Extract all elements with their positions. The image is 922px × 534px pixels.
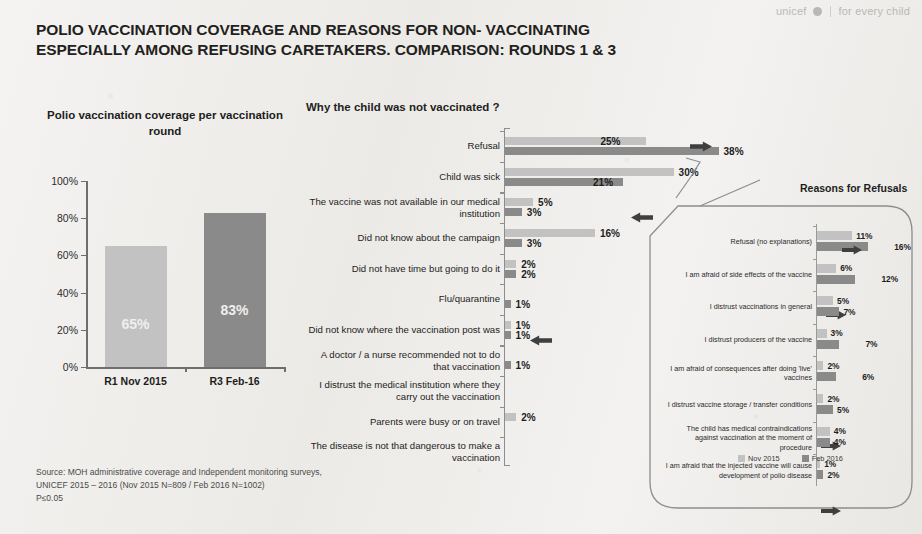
reasons-bar-fill: [505, 239, 522, 247]
reasons-row-tick: [500, 437, 505, 438]
reasons-bar-value: 3%: [527, 237, 541, 248]
coverage-y-tick: 60%: [57, 249, 78, 261]
reasons-bar[interactable]: [505, 290, 511, 298]
legend-label-feb2016: Feb 2016: [812, 454, 843, 463]
refusal-bar[interactable]: 4%: [817, 438, 830, 447]
reasons-bar[interactable]: 2%: [505, 260, 516, 268]
reasons-bar-fill: [505, 413, 516, 421]
reasons-bar[interactable]: 21%: [505, 178, 674, 186]
refusal-bar[interactable]: 6%: [817, 264, 855, 273]
reasons-row-tick: [500, 407, 505, 408]
reasons-row-tick: [500, 315, 505, 316]
refusal-bar-value: 5%: [837, 405, 849, 415]
refusal-bar[interactable]: 5%: [817, 296, 839, 305]
refusal-bar-value: 2%: [827, 361, 839, 371]
refusal-bar-value: 12%: [881, 274, 898, 284]
legend-swatch-nov2015: [738, 455, 745, 462]
reasons-bar-group: 2%: [505, 413, 516, 431]
refusal-bar[interactable]: 12%: [817, 275, 855, 284]
reasons-chart-title: Why the child was not vaccinated ?: [306, 100, 666, 115]
refusal-bar-fill: [817, 361, 823, 370]
increase-arrow-refusal-no-explanations: [840, 245, 864, 255]
coverage-y-tick: 40%: [57, 287, 78, 299]
unicef-tagline: for every child: [839, 5, 910, 17]
reasons-bar-value: 30%: [679, 166, 699, 177]
reasons-bar-fill: [505, 198, 533, 206]
reasons-row: Did not know about the campaign16%3%: [306, 223, 686, 254]
reasons-bar-group: 2%2%: [505, 260, 516, 278]
refusal-bar[interactable]: 2%: [817, 394, 833, 403]
reasons-bar[interactable]: [505, 423, 516, 431]
reasons-row: Parents were busy or on travel2%: [306, 407, 686, 438]
refusal-bar-value: 2%: [827, 470, 839, 480]
reasons-bar[interactable]: 3%: [505, 208, 533, 216]
legend-label-nov2015: Nov 2015: [748, 454, 780, 463]
reasons-bar[interactable]: [505, 351, 511, 359]
reasons-bar[interactable]: 3%: [505, 239, 595, 247]
refusal-bar[interactable]: 5%: [817, 405, 833, 414]
reasons-bar-fill: [505, 331, 511, 339]
refusal-bar[interactable]: 11%: [817, 231, 868, 240]
coverage-x-labels: R1 Nov 2015R3 Feb-16: [86, 371, 284, 391]
reasons-row: Flu/quarantine1%: [306, 284, 686, 315]
refusal-bar[interactable]: 2%: [817, 361, 836, 370]
coverage-x-tick-mark: [185, 367, 187, 372]
reasons-bar[interactable]: 2%: [505, 270, 516, 278]
coverage-bar[interactable]: 65%: [105, 246, 167, 367]
refusal-bar-fill: [817, 296, 833, 305]
reasons-bar[interactable]: 16%: [505, 229, 595, 237]
reasons-bar-fill: [505, 147, 719, 155]
refusal-bar-group: 3%7%: [817, 329, 839, 349]
refusal-category-label: The child has medical contraindications …: [662, 424, 812, 452]
refusal-bar[interactable]: 3%: [817, 329, 839, 338]
refusal-row: The child has medical contraindications …: [656, 422, 908, 455]
reasons-bar[interactable]: 1%: [505, 361, 511, 369]
refusal-bar[interactable]: 2%: [817, 470, 823, 479]
reasons-category-label: Did not know where the vaccination post …: [308, 324, 500, 336]
reasons-bar-group: 5%3%: [505, 198, 533, 216]
refusal-bar-fill: [817, 438, 830, 447]
reasons-bar[interactable]: 38%: [505, 147, 719, 155]
reasons-bar[interactable]: 25%: [505, 137, 719, 145]
source-line-2: UNICEF 2015 – 2016 (Nov 2015 N=809 / Feb…: [36, 479, 436, 492]
coverage-bar[interactable]: 83%: [204, 213, 266, 367]
refusal-bar-group: 2%5%: [817, 394, 833, 414]
reasons-bar-value: 1%: [516, 329, 530, 340]
refusal-row-tick: [813, 356, 817, 357]
refusal-bar-value: 16%: [894, 242, 911, 252]
reasons-bar-value: 1%: [516, 299, 530, 310]
reasons-chart: Refusal25%38%Child was sick30%21%The vac…: [306, 128, 686, 468]
reasons-row-tick: [500, 162, 505, 163]
reasons-bar[interactable]: 1%: [505, 300, 511, 308]
refusal-row: I distrust producers of the vaccine3%7%: [656, 324, 908, 357]
reasons-bar-fill: [505, 260, 516, 268]
refusal-bar[interactable]: 6%: [817, 372, 836, 381]
refusal-bar[interactable]: 4%: [817, 427, 830, 436]
refusal-bar[interactable]: 7%: [817, 340, 839, 349]
reasons-bar[interactable]: 5%: [505, 198, 533, 206]
reasons-category-label: Did not know about the campaign: [308, 232, 500, 244]
refusal-bar-value: 3%: [831, 328, 843, 338]
refusal-bar-group: 5%7%: [817, 296, 839, 316]
reasons-row: Did not have time but going to do it2%2%: [306, 254, 686, 285]
refusal-bar-value: 11%: [856, 231, 872, 241]
refusal-bar-fill: [817, 372, 836, 381]
reasons-bar-group: 30%21%: [505, 168, 674, 186]
reasons-bar-group: 1%1%: [505, 321, 511, 339]
refusals-chart-title: Reasons for Refusals: [800, 182, 910, 196]
reasons-row: Did not know where the vaccination post …: [306, 315, 686, 346]
increase-arrow-live-vaccines: [819, 506, 843, 516]
reasons-chart-panel: Why the child was not vaccinated ? Refus…: [306, 100, 666, 468]
increase-arrow-refusal: [688, 141, 714, 152]
reasons-bar[interactable]: 2%: [505, 413, 516, 421]
reasons-bar[interactable]: 1%: [505, 331, 511, 339]
refusal-bar-group: 2%6%: [817, 361, 836, 381]
refusal-bar-value: 5%: [837, 296, 849, 306]
refusal-bar-value: 7%: [843, 307, 855, 317]
reasons-bar[interactable]: 30%: [505, 168, 674, 176]
coverage-plot-area: 65%83%: [86, 181, 284, 367]
reasons-bar[interactable]: 1%: [505, 321, 511, 329]
refusal-bar[interactable]: 7%: [817, 307, 839, 316]
reasons-bar-fill: [505, 300, 511, 308]
legend-item-nov2015: Nov 2015: [738, 454, 780, 463]
